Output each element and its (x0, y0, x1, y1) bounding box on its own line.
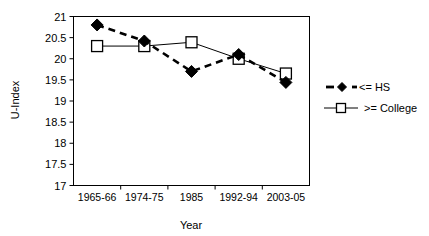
legend-label-hs: <= HS (359, 81, 390, 93)
y-tick-label-1: 17.5 (45, 158, 66, 170)
y-tick-label-7: 20.5 (45, 32, 66, 44)
y-tick-label-2: 18 (54, 137, 66, 149)
x-category-label-3: 1992-94 (219, 191, 258, 203)
y-tick-label-8: 21 (54, 11, 66, 23)
legend-square-icon (337, 104, 346, 113)
y-tick-label-4: 19 (54, 95, 66, 107)
x-axis-title: Year (180, 219, 203, 231)
x-category-label-1: 1974-75 (125, 191, 164, 203)
y-tick-label-5: 19.5 (45, 74, 66, 86)
data-point-square-0 (92, 41, 103, 52)
chart-container: 1717.51818.51919.52020.521 1965-661974-7… (0, 0, 429, 236)
line-chart: 1717.51818.51919.52020.521 1965-661974-7… (0, 0, 429, 236)
y-tick-label-3: 18.5 (45, 116, 66, 128)
legend-entry-college: >= College (324, 102, 417, 114)
y-tick-label-6: 20 (54, 53, 66, 65)
x-category-label-4: 2003-05 (267, 191, 306, 203)
x-axis-category-labels: 1965-661974-7519851992-942003-05 (78, 191, 305, 203)
data-point-square-2 (186, 37, 197, 48)
y-tick-label-0: 17 (54, 180, 66, 192)
y-axis-title: U-Index (9, 80, 21, 119)
x-category-label-2: 1985 (180, 191, 204, 203)
legend-label-college: >= College (364, 102, 417, 114)
x-category-label-0: 1965-66 (78, 191, 117, 203)
